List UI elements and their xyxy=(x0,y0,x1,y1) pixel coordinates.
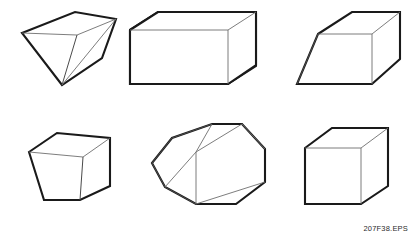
rectangular-box-body xyxy=(130,12,256,84)
shape-cube xyxy=(305,128,388,204)
solids-illustration-canvas xyxy=(0,0,416,238)
inverted-pyramid-silhouette xyxy=(22,12,116,85)
geometric-solids-figure: 207F38.EPS xyxy=(0,0,416,238)
shape-rectangular-box xyxy=(130,12,256,84)
shape-tapered-frustum xyxy=(29,133,110,200)
tapered-frustum-silhouette xyxy=(29,133,110,200)
hexagonal-prism-silhouette xyxy=(152,124,265,204)
shape-hexagonal-prism xyxy=(152,124,265,204)
shape-oblique-prism xyxy=(297,12,400,84)
cube-silhouette xyxy=(305,128,388,204)
figure-caption: 207F38.EPS xyxy=(363,224,408,233)
shape-inverted-pyramid xyxy=(22,12,116,85)
